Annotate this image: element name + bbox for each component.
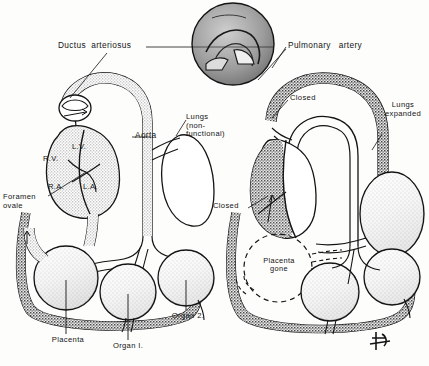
umbilical-vein-fill xyxy=(24,228,48,262)
label-lungs-expanded: Lungs expanded xyxy=(376,101,429,118)
lung-expanded-stipple xyxy=(361,173,423,255)
heart-outline xyxy=(46,126,119,219)
lung-nonfunctional xyxy=(162,135,214,227)
label-closed-upper: Closed xyxy=(290,94,316,103)
label-left-ventricle: L.V. xyxy=(72,143,86,152)
label-closed-lower: Closed xyxy=(213,202,239,211)
panel-left-fetal xyxy=(16,47,214,340)
label-placenta-gone: Placenta gone xyxy=(251,257,307,274)
organ-2-r-stipple xyxy=(365,250,419,304)
label-left-atrium: L.A. xyxy=(83,183,98,192)
label-foramen-ovale: Foramen ovale xyxy=(3,193,36,210)
label-organ-2: Organ 2. xyxy=(160,312,216,321)
label-placenta: Placenta xyxy=(40,336,96,345)
label-organ-1: Organ I. xyxy=(100,342,156,351)
leader-lungs xyxy=(176,120,186,136)
label-right-ventricle: R.V. xyxy=(43,155,58,164)
placenta-gone-stub xyxy=(312,250,342,262)
inset-detail xyxy=(192,3,274,85)
panel-right-postnatal xyxy=(227,47,424,334)
label-aorta: Aorta xyxy=(135,131,157,140)
label-ductus-arteriosus: Ductus arteriosus xyxy=(58,41,131,50)
anatomical-figure: Ductus arteriosus Aorta Lungs (non- func… xyxy=(0,0,429,366)
artist-monogram xyxy=(370,332,390,350)
label-right-atrium: R.A. xyxy=(48,183,64,192)
organ-1-r-stipple xyxy=(302,264,358,320)
label-pulmonary-artery: Pulmonary artery xyxy=(288,41,362,50)
label-lungs-nonfunctional: Lungs (non- functional) xyxy=(186,113,225,139)
